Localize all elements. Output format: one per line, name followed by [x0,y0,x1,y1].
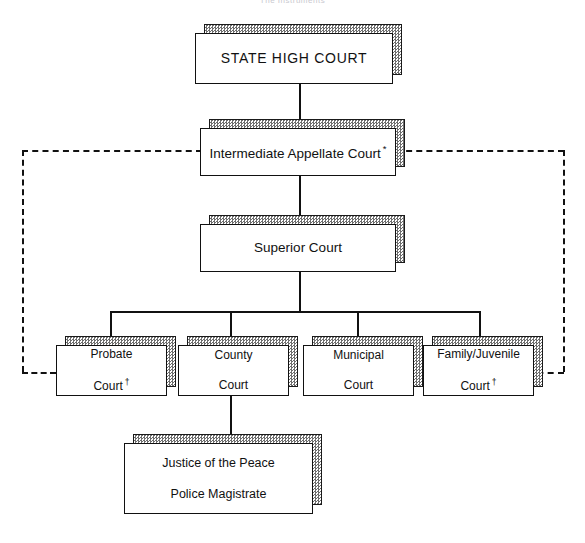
node-state-high-court[interactable]: STATE HIGH COURT [195,33,393,84]
appeal-route-left-top [22,150,202,152]
appeal-route-left-into-probate [22,372,56,374]
node-label: STATE HIGH COURT [215,50,374,68]
node-municipal-court[interactable]: Municipal Court [303,345,414,396]
footnote-marker-dagger: † [490,377,497,387]
node-label: Family/Juvenile Court† [431,347,526,395]
node-face: Family/Juvenile Court† [423,345,534,396]
appeal-route-right-down [563,150,565,372]
node-face: Probate Court† [56,345,167,396]
node-label: Justice of the Peace Police Magistrate [156,455,281,502]
node-face: Intermediate Appellate Court* [200,128,396,176]
trial-court-bus [110,311,481,313]
node-county-court[interactable]: County Court [178,345,289,396]
node-face: Justice of the Peace Police Magistrate [124,443,313,514]
footnote-marker-asterisk: * [381,143,387,154]
node-intermediate-appellate-court[interactable]: Intermediate Appellate Court* [200,128,396,176]
node-label: County Court [208,348,258,394]
node-label: Intermediate Appellate Court* [204,143,393,162]
node-face: County Court [178,345,289,396]
connector-superior-to-bus [299,272,301,311]
node-justice-of-the-peace[interactable]: Justice of the Peace Police Magistrate [124,443,313,514]
footnote-marker-dagger: † [123,377,130,387]
node-family-juvenile-court[interactable]: Family/Juvenile Court† [423,345,534,396]
node-label: Superior Court [248,239,348,256]
node-face: Superior Court [200,224,396,272]
appeal-route-left-down [22,150,24,372]
node-face: Municipal Court [303,345,414,396]
node-superior-court[interactable]: Superior Court [200,224,396,272]
node-label: Probate Court† [84,347,138,395]
court-system-diagram: The Instruments STATE HIGH COURT Interme… [0,0,585,543]
node-label: Municipal Court [327,348,390,394]
node-face: STATE HIGH COURT [195,33,393,84]
clipped-title-fragment: The Instruments [0,0,585,3]
node-probate-court[interactable]: Probate Court† [56,345,167,396]
appeal-route-right-top [396,150,564,152]
